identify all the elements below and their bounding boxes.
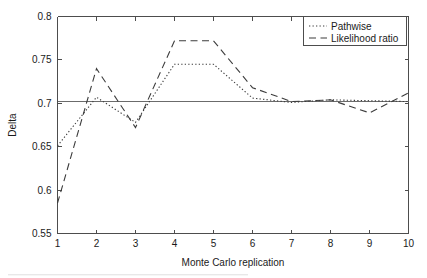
x-tick-label: 4 — [172, 238, 178, 249]
legend-label-pathwise: Pathwise — [331, 21, 372, 32]
chart-legend: Pathwise Likelihood ratio — [304, 17, 407, 46]
y-tick-label: 0.65 — [32, 141, 52, 152]
x-tick-label: 3 — [133, 238, 139, 249]
x-tick-label: 6 — [250, 238, 256, 249]
y-tick-label: 0.8 — [38, 11, 52, 22]
y-axis-title: Delta — [7, 113, 18, 137]
x-tick-label: 5 — [211, 238, 217, 249]
page-scan-artifact — [8, 274, 248, 275]
x-tick-label: 7 — [289, 238, 295, 249]
line-chart: 0.550.60.650.70.750.8 12345678910 Delta … — [0, 0, 427, 278]
x-tick-label: 9 — [367, 238, 373, 249]
x-tick-label: 1 — [55, 238, 61, 249]
x-tick-label: 10 — [403, 238, 415, 249]
y-tick-label: 0.7 — [38, 98, 52, 109]
y-tick-label: 0.75 — [32, 54, 52, 65]
x-tick-label: 8 — [328, 238, 334, 249]
y-tick-label: 0.55 — [32, 228, 52, 239]
y-tick-label: 0.6 — [38, 185, 52, 196]
chart-figure: 0.550.60.650.70.750.8 12345678910 Delta … — [0, 0, 427, 278]
x-tick-label: 2 — [94, 238, 100, 249]
x-axis-title: Monte Carlo replication — [182, 257, 285, 268]
legend-label-likelihood-ratio: Likelihood ratio — [331, 33, 399, 44]
